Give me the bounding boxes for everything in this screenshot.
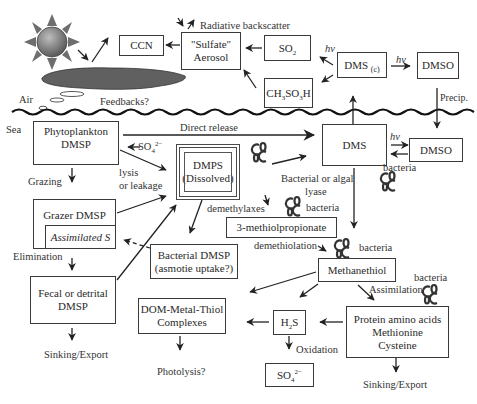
lyase-label-1: Bacterial or algal — [281, 173, 353, 185]
sulfate-aerosol-box: "Sulfate" Aerosol — [181, 32, 241, 70]
aerosol-label: Aerosol — [194, 51, 229, 64]
so2-box: SO2 — [264, 35, 311, 61]
bacteria-assim-label: bacteria — [414, 272, 447, 284]
hv-label-sea: hv — [390, 131, 400, 143]
grazer-dmsp-label: Grazer DMSP — [43, 209, 106, 222]
assimilated-s-box: Assimilated S — [45, 225, 116, 249]
dmsp-cycle-diagram: Radiative backscatter CCN "Sulfate" Aero… — [0, 0, 477, 404]
sinking-export-left-label: Sinking/Export — [44, 349, 108, 361]
direct-release-label: Direct release — [180, 122, 238, 134]
demethiolation-label: demethiolation — [254, 240, 317, 252]
dmsp-dissolved-box: DMPS (Dissolved) — [176, 144, 240, 200]
bacteria-demethyl-label: bacteria — [306, 202, 339, 214]
dms-c-label: DMS (c) — [344, 59, 379, 72]
dmso-sea-label: DMSO — [420, 144, 452, 157]
fecal-dmsp-box: Fecal or detrital DMSP — [30, 276, 116, 324]
radiative-backscatter-label: Radiative backscatter — [200, 20, 290, 32]
assimilated-s-label: Assimilated S — [51, 231, 111, 244]
protein-amino-acids-box: Protein amino acids Methionine Cysteine — [346, 306, 449, 358]
leakage-label: or leakage — [119, 180, 162, 192]
ch3so3h-box: CH3SO3H — [264, 78, 313, 108]
osmotic-uptake-label: (asmotie uptake?) — [155, 262, 234, 275]
photolysis-label: Photolysis? — [157, 366, 205, 378]
dms-sea-label: DMS — [343, 139, 367, 152]
methiolpropionate-label: 3-methiolpropionate — [237, 221, 327, 234]
grazing-label: Grazing — [28, 176, 62, 188]
phytoplankton-dmsp-box: Phytoplankton DMSP — [33, 121, 119, 165]
dmso-air-box: DMSO — [417, 52, 459, 79]
demethylaxes-label: demethylaxes — [207, 203, 265, 215]
hv-label-dmso: hv — [396, 54, 406, 66]
elimination-label: Elimination — [13, 251, 63, 263]
methanethiol-box: Methanethiol — [318, 258, 396, 282]
feedbacks-label: Feedbacks? — [100, 96, 149, 108]
bacteria-dmso-label: bacteria — [383, 162, 416, 174]
ch3so3h-label: CH3SO3H — [266, 87, 310, 100]
dissolved-label: (Dissolved) — [182, 172, 233, 185]
sea-label: Sea — [6, 124, 21, 136]
dms-cloud-box: DMS (c) — [337, 52, 387, 78]
sinking-export-right-label: Sinking/Export — [363, 379, 427, 391]
precip-label: Precip. — [440, 92, 468, 104]
so4-out-box: SO42− — [265, 363, 314, 387]
bacterial-dmsp-box: Bacterial DMSP (asmotie uptake?) — [150, 244, 238, 279]
ccn-label: CCN — [130, 39, 153, 52]
bacteria-demethiol-label: bacteria — [359, 242, 392, 254]
phytoplankton-label: Phytoplankton — [44, 125, 108, 138]
fecal-dmsp-label: DMSP — [58, 300, 88, 313]
cloud-icon — [42, 68, 186, 89]
cysteine-label: Cysteine — [378, 339, 417, 352]
methanethiol-label: Methanethiol — [328, 264, 387, 277]
air-label: Air — [19, 94, 33, 106]
so2-label: SO2 — [279, 42, 297, 55]
methionine-label: Methionine — [372, 326, 423, 339]
sulfate-label: "Sulfate" — [191, 38, 231, 51]
dmso-air-label: DMSO — [422, 59, 454, 72]
protein-label: Protein amino acids — [354, 313, 441, 326]
h2s-label: H2S — [281, 316, 299, 329]
phytoplankton-dmsp-label: DMSP — [61, 138, 91, 151]
h2s-box: H2S — [273, 310, 306, 335]
so4-in-label: SO42− — [138, 141, 162, 153]
hv-label-so2: hv — [325, 43, 335, 55]
sun-icon — [24, 14, 80, 70]
lyase-label-2: lyase — [305, 186, 327, 198]
lysis-label: lysis — [119, 167, 138, 179]
dmso-sea-box: DMSO — [409, 138, 463, 162]
dom-metal-thiol-box: DOM-Metal-Thiol Complexes — [138, 298, 226, 334]
fecal-label: Fecal or detrital — [38, 287, 108, 300]
dom-label: DOM-Metal-Thiol — [141, 303, 223, 316]
oxidation-label: Oxidation — [296, 344, 338, 356]
bacterial-dmsp-label: Bacterial DMSP — [158, 249, 230, 262]
sea-surface-wave — [12, 110, 474, 115]
dmsp-dissolved-label: DMPS — [193, 159, 223, 172]
dms-sea-box: DMS — [322, 124, 387, 166]
so4-out-label: SO42− — [277, 369, 302, 382]
complexes-label: Complexes — [157, 316, 207, 329]
methiolpropionate-box: 3-methiolpropionate — [226, 217, 337, 238]
ccn-box: CCN — [119, 35, 164, 56]
assimilation-label: Assimilation — [369, 284, 423, 296]
